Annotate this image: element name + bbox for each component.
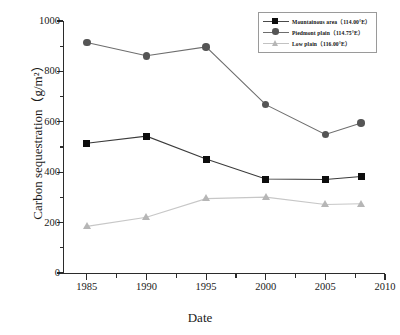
data-point [358,173,365,180]
data-point [321,200,329,207]
data-point [262,193,270,200]
series-line-0 [87,136,361,179]
data-point [83,222,91,229]
data-point [202,43,210,51]
data-point [357,200,365,207]
legend-item-mountainous-area: Mountainous area（114.00°E） [263,16,371,27]
triangle-marker-icon [263,38,289,49]
square-marker-icon [263,16,289,27]
data-point [143,52,151,60]
series-line-1 [87,42,361,134]
legend-label: Mountainous area（114.00°E） [292,18,371,26]
legend-item-low-plain: Low plain（116.00°E） [263,38,371,49]
circle-marker-icon [263,27,289,38]
series-line-2 [87,197,361,226]
legend-label: Piedmont plain（114.75°E） [292,29,364,37]
data-point [262,176,269,183]
x-axis-title: Date [0,310,400,326]
data-point [202,194,210,201]
data-point [83,140,90,147]
data-point [322,176,329,183]
data-point [142,213,150,220]
data-point [203,156,210,163]
carbon-sequestration-line-chart: 0200400600800100019851990199520002005201… [0,0,400,335]
data-point [83,39,91,47]
legend-label: Low plain（116.00°E） [292,40,351,48]
legend-item-piedmont-plain: Piedmont plain（114.75°E） [263,27,371,38]
data-point [357,119,365,127]
y-axis-title: Carbon sequestration（g/m²） [27,20,46,260]
chart-legend: Mountainous area（114.00°E） Piedmont plai… [258,12,377,53]
data-point [143,133,150,140]
